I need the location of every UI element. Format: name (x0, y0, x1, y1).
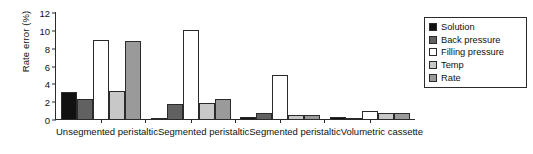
x-group-separator-mark (145, 119, 146, 123)
legend-swatch-icon (429, 36, 437, 44)
x-group-separator-mark (235, 119, 236, 123)
bar-group (236, 12, 326, 119)
bar (304, 115, 320, 119)
x-tick-mark (101, 119, 102, 123)
bar (61, 92, 77, 119)
y-tick-mark (52, 120, 56, 121)
bar (240, 117, 256, 119)
bar-group (325, 12, 415, 119)
y-tick-mark (52, 66, 56, 67)
bar (167, 104, 183, 119)
bar (362, 111, 378, 119)
legend-item[interactable]: Solution (429, 21, 522, 34)
x-axis-category-labels: Unsegmented peristalticSegmented perista… (56, 126, 415, 137)
x-category-label: Unsegmented peristaltic (56, 126, 158, 137)
legend-swatch-icon (429, 23, 437, 31)
bar-groups (56, 12, 415, 119)
legend-item-label: Filling pressure (441, 47, 504, 57)
bar-group (146, 12, 236, 119)
x-tick-mark (280, 119, 281, 123)
legend-item[interactable]: Back pressure (429, 34, 522, 47)
y-tick-mark (52, 30, 56, 31)
bar (93, 40, 109, 119)
y-tick-mark (52, 102, 56, 103)
bar (77, 99, 93, 120)
bar (256, 113, 272, 119)
bar (151, 118, 167, 119)
legend-item[interactable]: Temp (429, 59, 522, 72)
y-tick-mark (52, 84, 56, 85)
legend-swatch-icon (429, 74, 437, 82)
bar (109, 91, 125, 119)
bar (125, 41, 141, 119)
x-tick-mark (191, 119, 192, 123)
x-tick-mark (370, 119, 371, 123)
bar (183, 30, 199, 119)
plot-area: 024681012 (55, 12, 415, 120)
bar (215, 99, 231, 120)
legend-item-label: Temp (441, 60, 464, 70)
bar (272, 75, 288, 119)
y-tick-mark (52, 13, 56, 14)
bar-group (56, 12, 146, 119)
y-tick-mark (52, 48, 56, 49)
legend-item[interactable]: Filling pressure (429, 46, 522, 59)
bar (378, 113, 394, 119)
bar (346, 118, 362, 119)
bar (199, 103, 215, 119)
legend-item-label: Solution (441, 22, 475, 32)
legend-item-label: Back pressure (441, 35, 500, 45)
bar (394, 113, 410, 119)
x-group-separator-mark (324, 119, 325, 123)
y-axis-title: Rate error (%) (20, 0, 31, 97)
legend-item[interactable]: Rate (429, 71, 522, 84)
bar (330, 117, 346, 119)
legend-item-label: Rate (441, 73, 461, 83)
rate-error-bar-chart: Rate error (%) 024681012 Unsegmented per… (0, 0, 533, 154)
chart-legend: SolutionBack pressureFilling pressureTem… (424, 17, 527, 88)
x-category-label: Volumetric cassette (341, 126, 423, 137)
bar (288, 115, 304, 119)
legend-swatch-icon (429, 61, 437, 69)
legend-swatch-icon (429, 48, 437, 56)
x-category-label: Segmented peristaltic (249, 126, 340, 137)
x-category-label: Segmented peristaltic (158, 126, 249, 137)
